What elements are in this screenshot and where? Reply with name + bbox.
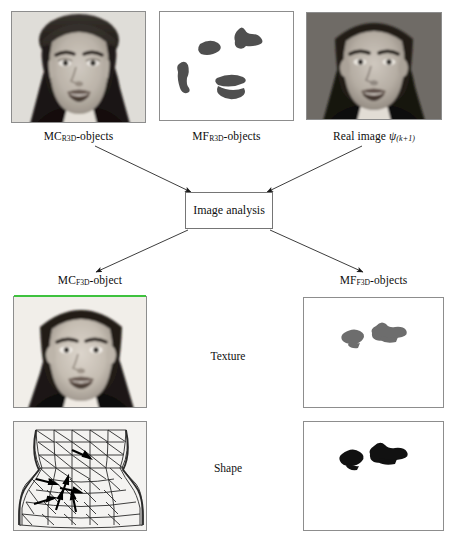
caption-mc-r3d-sub: R3D	[62, 134, 76, 143]
caption-mf-r3d-objects: MFR3D-objects	[159, 130, 294, 143]
caption-mf-r3d-sub: R3D	[209, 134, 223, 143]
caption-mf-f3d-sub: F3D	[357, 278, 371, 287]
caption-mc-r3d-objects: MCR3D-objects	[11, 130, 146, 143]
face-image-mc-r3d	[12, 12, 145, 122]
panel-mf-f3d-texture	[303, 297, 444, 408]
caption-mc-f3d-suffix: -object	[89, 274, 122, 286]
image-analysis-box[interactable]: Image analysis	[185, 192, 273, 229]
caption-mc-f3d-object: MCF3D-object	[20, 274, 160, 287]
blob-image-mf-r3d	[160, 12, 293, 120]
arrow-real-image-to-analysis	[267, 146, 362, 192]
row-label-texture: Texture	[183, 350, 273, 362]
scan-artifact-green-line	[14, 295, 146, 297]
caption-real-image-prefix: Real image	[333, 130, 389, 142]
panel-mf-r3d-objects	[159, 11, 294, 121]
caption-mf-f3d-prefix: MF	[340, 274, 357, 286]
panel-mc-f3d-texture	[13, 296, 147, 408]
caption-real-image: Real image ψ(k+1)	[306, 130, 442, 145]
face-image-mc-f3d-texture	[14, 297, 146, 407]
panel-mc-r3d-objects	[11, 11, 146, 123]
panel-mf-f3d-shape	[303, 421, 444, 531]
arrow-analysis-to-mc-f3d	[96, 230, 188, 272]
arrow-mc-r3d-to-analysis	[95, 146, 191, 192]
caption-psi-subscript: (k+1)	[396, 134, 415, 143]
caption-mf-r3d-suffix: -objects	[223, 130, 260, 142]
caption-mc-f3d-sub: F3D	[76, 278, 90, 287]
image-analysis-label: Image analysis	[193, 203, 265, 218]
caption-mf-r3d-prefix: MF	[192, 130, 209, 142]
caption-mc-f3d-prefix: MC	[58, 274, 76, 286]
blob-image-mf-f3d-texture	[304, 298, 443, 407]
face-image-real	[307, 13, 441, 119]
arrow-analysis-to-mf-f3d	[270, 230, 363, 272]
row-label-shape: Shape	[183, 462, 273, 474]
figure-canvas: MCR3D-objects MFR3D-objects Real image ψ…	[0, 0, 453, 544]
caption-mc-r3d-suffix: -objects	[76, 130, 113, 142]
caption-mc-r3d-prefix: MC	[44, 130, 62, 142]
panel-real-image	[306, 12, 442, 120]
caption-mf-f3d-suffix: -objects	[370, 274, 407, 286]
caption-mf-f3d-objects: MFF3D-objects	[303, 274, 444, 287]
blob-image-mf-f3d-shape	[304, 422, 443, 530]
panel-mc-f3d-shape	[13, 421, 147, 531]
wireframe-mesh-image	[14, 422, 146, 530]
